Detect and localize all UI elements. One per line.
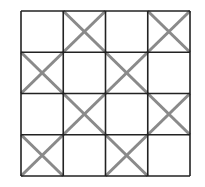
x-mark-icon (148, 94, 190, 135)
x-mark-icon (106, 135, 148, 176)
x-mark-icon (106, 52, 148, 93)
x-mark-icon (148, 11, 190, 52)
x-mark-icon (21, 135, 63, 176)
x-mark-icon (21, 52, 63, 93)
x-mark-icon (63, 11, 105, 52)
checkerboard-x-grid (0, 0, 205, 187)
x-mark-icon (63, 94, 105, 135)
